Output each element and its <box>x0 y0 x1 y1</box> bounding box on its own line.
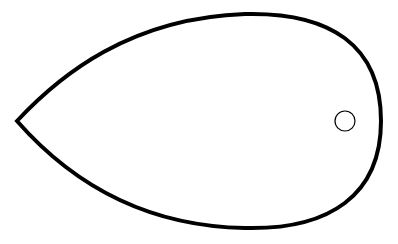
teardrop-diagram <box>0 0 398 244</box>
teardrop-outline <box>17 14 381 228</box>
diagram-canvas <box>0 0 398 244</box>
